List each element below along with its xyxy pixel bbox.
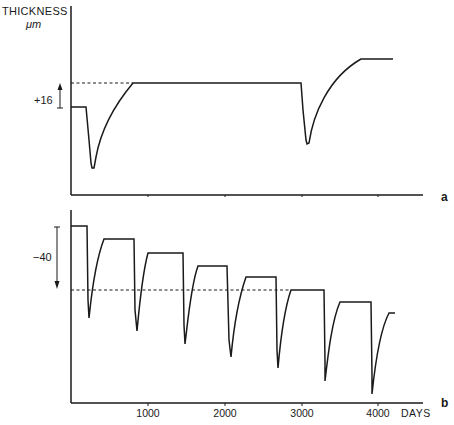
x-tick-label-4000: 4000 [366, 408, 389, 419]
panel-b-annotation-label: −40 [33, 252, 52, 263]
panel-a-annotation-label: +16 [34, 95, 53, 106]
x-tick-label-2000: 2000 [213, 408, 236, 419]
x-tick-label-1000: 1000 [136, 408, 159, 419]
x-axis-unit: DAYS [401, 408, 431, 419]
x-tick-label-3000: 3000 [290, 408, 313, 419]
panel-b-thickness-curve [71, 226, 395, 394]
panel-a-arrowhead-up [58, 83, 63, 90]
panel-b-label: b [441, 397, 448, 409]
panel-a-thickness-curve [71, 59, 393, 168]
panel-b-arrowhead-down [55, 281, 60, 289]
panel-a-label: a [441, 191, 448, 203]
y-axis-unit: μm [26, 19, 41, 30]
y-axis-title: THICKNESS [2, 6, 68, 17]
chart-canvas [0, 0, 454, 425]
